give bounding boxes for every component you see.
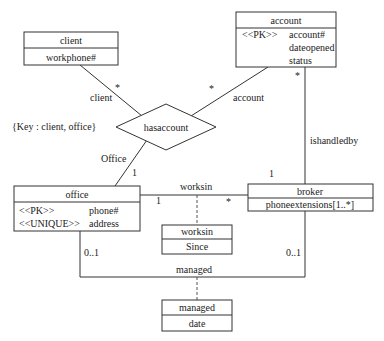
multiplicity-account-broker: * [295,70,300,81]
ishandledby-label: ishandledby [310,135,358,146]
office-pk-stereotype: <<PK>> [19,205,55,216]
multiplicity-worksin-office: 1 [156,195,161,206]
office-class[interactable]: office <<PK>> phone# <<UNIQUE>> address [14,186,140,231]
broker-attr: phoneextensions[1..*] [266,199,354,210]
account-class-name: account [270,15,301,26]
multiplicity-managed-broker: 0..1 [286,247,301,258]
account-pk-stereotype: <<PK>> [242,29,278,40]
multiplicity-worksin-broker: * [226,196,231,207]
office-attr: phone# [89,205,118,216]
managed-class[interactable]: managed date [162,300,232,331]
account-attr: status [289,55,312,66]
key-note: {Key : client, office} [12,121,96,132]
client-hasaccount-line [80,65,142,116]
client-class[interactable]: client workphone# [24,32,118,65]
client-attr: workphone# [46,52,96,63]
managed-attr: date [189,318,206,329]
account-attr: dateopened [289,42,335,53]
multiplicity-managed-office: 0..1 [84,247,99,258]
managed-assoc-label: managed [176,264,212,275]
worksin-class[interactable]: worksin Since [162,225,232,254]
worksin-class-name: worksin [181,226,213,237]
multiplicity-broker-account: 1 [269,168,274,179]
managed-class-name: managed [179,302,215,313]
client-class-name: client [60,35,82,46]
account-attr: account# [289,29,325,40]
hasaccount-relationship[interactable]: hasaccount [116,104,216,150]
role-office-label: Office [101,153,127,164]
account-class[interactable]: account <<PK>> account# dateopened statu… [236,12,336,67]
role-account-label: account [233,92,264,103]
worksin-attr: Since [186,241,209,252]
office-class-name: office [65,189,89,200]
role-client-label: client [90,92,112,103]
er-diagram: hasaccount {Key : client, office} client… [0,0,384,341]
multiplicity-account: * [209,83,214,94]
worksin-assoc-label: worksin [180,181,212,192]
office-unique-stereotype: <<UNIQUE>> [19,218,80,229]
multiplicity-client: * [115,82,120,93]
office-attr: address [89,218,119,229]
multiplicity-office: 1 [132,167,137,178]
broker-class[interactable]: broker phoneextensions[1..*] [248,184,373,211]
broker-class-name: broker [297,186,324,197]
hasaccount-label: hasaccount [144,122,189,133]
